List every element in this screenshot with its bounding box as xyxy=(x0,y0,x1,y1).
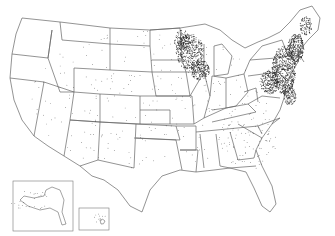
population-dots xyxy=(11,16,312,222)
inset-shapes xyxy=(20,187,105,225)
hawaii-shape xyxy=(100,219,105,224)
hawaii-inset-frame xyxy=(79,208,109,230)
us-dot-density-map xyxy=(0,0,335,236)
alaska-inset-frame xyxy=(13,181,73,231)
inset-frames xyxy=(13,181,109,231)
map-svg xyxy=(0,0,335,236)
